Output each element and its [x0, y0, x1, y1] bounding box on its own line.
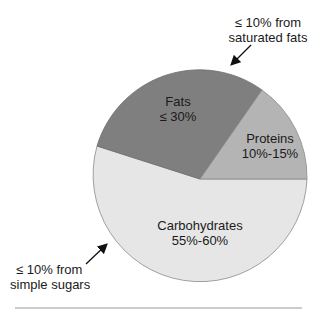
arrow-saturated-fats	[232, 45, 251, 64]
label-carbohydrates: Carbohydrates 55%-60%	[155, 218, 245, 248]
label-fats: Fats ≤ 30%	[148, 94, 208, 124]
label-saturated-fats: ≤ 10% from saturated fats	[228, 15, 308, 45]
label-simple-sugars: ≤ 10% from simple sugars	[10, 262, 90, 292]
label-proteins: Proteins 10%-15%	[240, 131, 300, 161]
pie-chart-figure: ≤ 10% from saturated fats Fats ≤ 30% Pro…	[0, 0, 317, 311]
